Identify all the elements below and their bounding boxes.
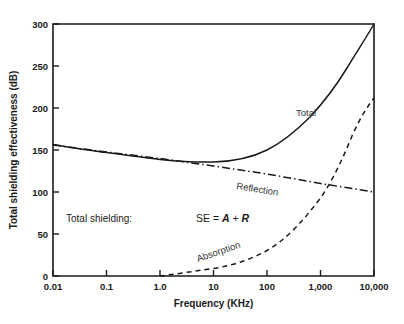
- x-axis-ticks: [53, 270, 374, 276]
- annotation-equation: SE = A + R: [196, 212, 250, 224]
- y-tick-label-250: 250: [32, 61, 48, 72]
- x-axis-tick-labels: 0.01 0.1 1.0 10 100 1,000 10,000: [44, 281, 389, 292]
- y-axis-tick-labels: 0 50 100 150 200 250 300: [32, 19, 48, 282]
- equation-se: SE =: [196, 212, 222, 224]
- shielding-effectiveness-chart: 0 50 100 150 200 250 300 0.01 0.1 1.0 10…: [0, 0, 404, 324]
- equation-r: R: [242, 212, 250, 224]
- y-tick-label-0: 0: [43, 271, 48, 282]
- curve-label-absorption: Absorption: [195, 239, 242, 264]
- x-tick-label-10000: 10,000: [359, 281, 388, 292]
- annotation-total-shielding: Total shielding:: [66, 213, 132, 224]
- x-tick-label-1-0: 1.0: [153, 281, 166, 292]
- y-axis-title: Total shielding effectiveness (dB): [8, 71, 19, 230]
- curve-label-total: Total: [296, 107, 316, 118]
- equation-a: A: [221, 212, 230, 224]
- y-tick-label-200: 200: [32, 103, 48, 114]
- curve-total: [53, 24, 374, 162]
- chart-svg: 0 50 100 150 200 250 300 0.01 0.1 1.0 10…: [0, 0, 404, 324]
- x-tick-label-100: 100: [259, 281, 275, 292]
- x-tick-label-0-1: 0.1: [100, 281, 114, 292]
- x-tick-label-0-01: 0.01: [44, 281, 63, 292]
- y-tick-label-300: 300: [32, 19, 48, 30]
- x-tick-label-1000: 1,000: [309, 281, 333, 292]
- y-tick-label-150: 150: [32, 145, 48, 156]
- plot-frame: [53, 24, 374, 276]
- curve-label-reflection: Reflection: [236, 180, 279, 197]
- x-axis-title: Frequency (KHz): [174, 298, 253, 309]
- x-tick-label-10: 10: [208, 281, 219, 292]
- y-tick-label-50: 50: [37, 229, 48, 240]
- y-axis-ticks: [53, 24, 59, 276]
- y-tick-label-100: 100: [32, 187, 48, 198]
